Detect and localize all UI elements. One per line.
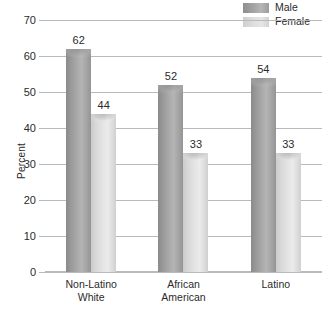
bar-female-0[interactable] bbox=[91, 114, 116, 272]
x-axis-label-2: Latino bbox=[262, 278, 291, 291]
bar-group-0: 6244 bbox=[45, 20, 137, 272]
x-axis-label-0: Non-LatinoWhite bbox=[65, 278, 116, 304]
y-tick-label-0: 0 bbox=[30, 266, 36, 278]
y-tick-label-60: 60 bbox=[24, 50, 36, 62]
bar-male-2[interactable] bbox=[251, 78, 276, 272]
bar-group-1: 5233 bbox=[137, 20, 229, 272]
bar-cap-icon bbox=[183, 153, 208, 162]
plot-area: 010203040506070624452335433 bbox=[45, 20, 322, 272]
bar-value-label: 33 bbox=[190, 138, 202, 150]
bar-cap-icon bbox=[91, 114, 116, 123]
bar-value-label: 54 bbox=[257, 63, 269, 75]
bar-value-label: 52 bbox=[165, 70, 177, 82]
bar-slot: 44 bbox=[91, 20, 116, 272]
bar-cap-icon bbox=[66, 49, 91, 58]
male-swatch-icon bbox=[243, 3, 269, 13]
legend-item-male[interactable]: Male bbox=[243, 2, 310, 13]
bar-value-label: 44 bbox=[98, 99, 110, 111]
y-tick-label-20: 20 bbox=[24, 194, 36, 206]
bar-female-2[interactable] bbox=[276, 153, 301, 272]
bar-value-label: 33 bbox=[282, 138, 294, 150]
legend-label-male: Male bbox=[275, 2, 298, 13]
x-axis-category-labels: Non-LatinoWhiteAfricanAmericanLatino bbox=[45, 278, 322, 318]
bar-male-1[interactable] bbox=[158, 85, 183, 272]
y-tick-label-10: 10 bbox=[24, 230, 36, 242]
bar-slot: 33 bbox=[276, 20, 301, 272]
y-tick-label-40: 40 bbox=[24, 122, 36, 134]
bar-chart: Male Female Percent 01020304050607062445… bbox=[0, 0, 332, 321]
bar-slot: 52 bbox=[158, 20, 183, 272]
x-axis-label-1: AfricanAmerican bbox=[161, 278, 205, 304]
bar-group-2: 5433 bbox=[230, 20, 322, 272]
bar-male-0[interactable] bbox=[66, 49, 91, 272]
y-tick-label-50: 50 bbox=[24, 86, 36, 98]
bar-value-label: 62 bbox=[73, 34, 85, 46]
bar-slot: 62 bbox=[66, 20, 91, 272]
bar-cap-icon bbox=[251, 78, 276, 87]
bar-cap-icon bbox=[158, 85, 183, 94]
y-tick-label-70: 70 bbox=[24, 14, 36, 26]
bar-female-1[interactable] bbox=[183, 153, 208, 272]
bar-cap-icon bbox=[276, 153, 301, 162]
bar-slot: 54 bbox=[251, 20, 276, 272]
bar-slot: 33 bbox=[183, 20, 208, 272]
y-tick-label-30: 30 bbox=[24, 158, 36, 170]
